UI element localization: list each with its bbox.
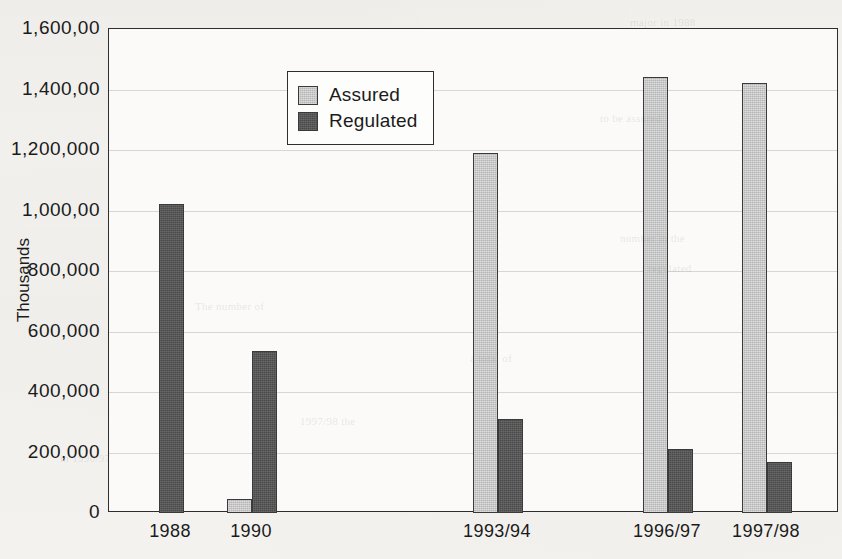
bar-regulated-1988: [159, 204, 184, 513]
y-axis-tick-label: 400,000: [28, 380, 100, 402]
y-axis-tick-label: 800,000: [28, 259, 100, 281]
bar-regulated-1993-94: [498, 419, 523, 513]
x-axis-tick-label: 1988: [149, 521, 191, 542]
legend-swatch-assured: [298, 86, 318, 105]
bar-regulated-1997-98: [767, 462, 792, 513]
chart-legend: Assured Regulated: [287, 71, 434, 145]
y-axis-tick-label: 600,000: [28, 320, 100, 342]
gridline: [109, 150, 837, 151]
legend-label-regulated: Regulated: [329, 110, 417, 132]
grouped-bar-chart: Thousands 1,600,001,400,001,200,0001,000…: [0, 0, 842, 559]
legend-swatch-regulated: [298, 112, 318, 131]
x-axis-tick-label: 1997/98: [732, 521, 800, 542]
y-axis-tick-label: 0: [89, 501, 100, 523]
bar-assured-1997-98: [742, 83, 767, 513]
x-axis-tick-label: 1993/94: [463, 521, 531, 542]
bar-assured-1990: [227, 499, 252, 513]
legend-item-regulated: Regulated: [298, 110, 417, 132]
x-axis-tick-label: 1990: [230, 521, 272, 542]
legend-item-assured: Assured: [298, 84, 417, 106]
gridline: [109, 90, 837, 91]
y-axis-tick-label: 1,200,000: [11, 138, 100, 160]
bar-assured-1993-94: [473, 153, 498, 513]
y-axis-tick-label: 1,400,00: [22, 78, 100, 100]
y-axis-tick-label: 200,000: [28, 441, 100, 463]
legend-label-assured: Assured: [329, 84, 400, 106]
y-axis-tick-label: 1,600,00: [22, 17, 100, 39]
y-axis-tick-label: 1,000,00: [22, 199, 100, 221]
plot-area: Assured Regulated: [108, 28, 838, 512]
bar-regulated-1996-97: [668, 449, 693, 513]
bar-assured-1996-97: [643, 77, 668, 513]
x-axis-tick-label: 1996/97: [633, 521, 701, 542]
ghost-text: major in 1988: [630, 16, 696, 28]
bar-regulated-1990: [252, 351, 277, 513]
y-axis: Thousands 1,600,001,400,001,200,0001,000…: [0, 0, 104, 559]
